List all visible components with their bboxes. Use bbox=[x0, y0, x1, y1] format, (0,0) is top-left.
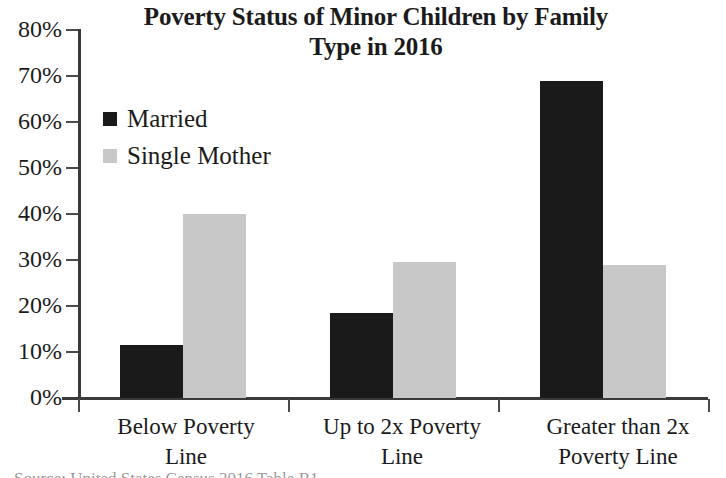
category-label-line: Below Poverty bbox=[82, 412, 290, 442]
x-axis-tick bbox=[288, 399, 290, 412]
category-label-line: Greater than 2x bbox=[514, 412, 722, 442]
y-axis-tick-label: 60% bbox=[0, 109, 62, 133]
legend-label: Single Mother bbox=[127, 143, 271, 168]
x-axis-tick bbox=[708, 399, 710, 412]
x-axis-tick bbox=[78, 399, 80, 412]
legend-label: Married bbox=[127, 106, 208, 131]
chart-title-line-1: Poverty Status of Minor Children by Fami… bbox=[96, 2, 656, 32]
y-axis-tick-label: 70% bbox=[0, 63, 62, 87]
y-axis-tick-label: 80% bbox=[0, 17, 62, 41]
y-axis-tick-label: 40% bbox=[0, 201, 62, 225]
x-axis-tick bbox=[498, 399, 500, 412]
y-axis-tick-label: 20% bbox=[0, 293, 62, 317]
legend-item-single-mother[interactable]: Single Mother bbox=[103, 137, 271, 174]
y-axis-tick-label: 0% bbox=[0, 385, 62, 409]
category-label-line: Line bbox=[298, 442, 506, 472]
y-axis-tick-label: 50% bbox=[0, 155, 62, 179]
category-label-line: Up to 2x Poverty bbox=[298, 412, 506, 442]
chart-legend: MarriedSingle Mother bbox=[103, 100, 271, 174]
bar-married-3 bbox=[540, 81, 603, 398]
category-label-line: Line bbox=[82, 442, 290, 472]
bar-single-mother-2 bbox=[393, 262, 456, 398]
plot-area bbox=[78, 30, 708, 398]
bar-married-1 bbox=[120, 345, 183, 398]
bar-single-mother-3 bbox=[603, 265, 666, 398]
bar-married-2 bbox=[330, 313, 393, 398]
source-note: Source: United States Census 2016 Table … bbox=[14, 469, 574, 478]
category-label-line: Poverty Line bbox=[514, 442, 722, 472]
legend-swatch-icon bbox=[103, 149, 117, 163]
poverty-status-bar-chart: Poverty Status of Minor Children by Fami… bbox=[0, 0, 726, 478]
legend-swatch-icon bbox=[103, 112, 117, 126]
y-axis-tick-label: 10% bbox=[0, 339, 62, 363]
legend-item-married[interactable]: Married bbox=[103, 100, 271, 137]
y-axis-tick-label: 30% bbox=[0, 247, 62, 271]
bar-single-mother-1 bbox=[183, 214, 246, 398]
y-axis-labels: 80%70%60%50%40%30%20%10%0% bbox=[0, 0, 62, 478]
